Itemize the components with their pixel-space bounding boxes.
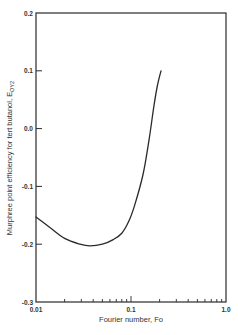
y-tick-label: 0.0 — [24, 125, 33, 132]
efficiency-curve — [36, 71, 161, 246]
x-axis-ticks: 0.010.11.0 — [30, 296, 231, 313]
chart-svg: 0.20.10.0-0.1-0.2-0.3 0.010.11.0 Fourier… — [0, 0, 238, 335]
y-axis-title: Murphree point efficiency for tert butan… — [5, 81, 15, 235]
y-axis-title-subscript: OY2 — [9, 81, 15, 92]
plot-frame — [36, 13, 226, 302]
y-axis-title-main: Murphree point efficiency for tert butan… — [5, 92, 14, 235]
y-tick-label: -0.3 — [22, 299, 34, 306]
y-tick-label: -0.2 — [22, 241, 34, 248]
y-tick-label: 0.1 — [24, 67, 33, 74]
x-tick-label: 0.1 — [126, 306, 135, 313]
y-tick-label: -0.1 — [22, 183, 34, 190]
x-tick-label: 0.01 — [30, 306, 43, 313]
chart: 0.20.10.0-0.1-0.2-0.3 0.010.11.0 Fourier… — [0, 0, 238, 335]
y-tick-label: 0.2 — [24, 10, 33, 17]
x-axis-title: Fourier number, Fo — [99, 315, 163, 324]
x-tick-label: 1.0 — [221, 306, 230, 313]
y-axis-ticks: 0.20.10.0-0.1-0.2-0.3 — [22, 10, 42, 306]
